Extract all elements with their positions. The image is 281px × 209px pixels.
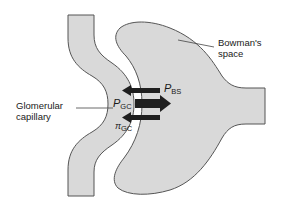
pi-gc-label: πGC bbox=[115, 121, 132, 134]
bowmans-space-label: Bowman's space bbox=[218, 38, 262, 60]
p-bs-label: PBS bbox=[164, 82, 181, 97]
p-gc-label: PGC bbox=[113, 97, 132, 112]
glomerular-capillary-label-line2: capillary bbox=[16, 112, 63, 123]
diagram-stage: Bowman's space Glomerular capillary PBS … bbox=[0, 0, 281, 209]
p-bs-subscript: BS bbox=[171, 87, 181, 96]
pi-gc-subscript: GC bbox=[121, 124, 132, 133]
bowmans-space-label-line2: space bbox=[218, 49, 262, 60]
glomerular-capillary-label: Glomerular capillary bbox=[16, 101, 63, 123]
p-gc-subscript: GC bbox=[120, 102, 131, 111]
